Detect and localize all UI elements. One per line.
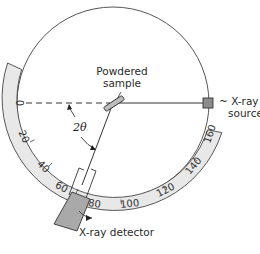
arrowhead-icon xyxy=(67,104,72,110)
scale-label-100: 100 xyxy=(120,197,140,210)
diffractometer-diagram: 0 20 40 60 80 100 120 140 160 2θ Powdere… xyxy=(0,0,260,254)
arrowhead-icon xyxy=(90,145,96,150)
scale-label-0: 0 xyxy=(14,100,25,106)
arrowhead-icon xyxy=(86,215,92,221)
x-ray-source-label-line1: ~ X-ray xyxy=(219,95,259,107)
x-ray-source-box xyxy=(203,98,213,108)
sample-label: sample xyxy=(103,77,141,89)
x-ray-source-label-line2: source xyxy=(228,107,260,119)
powdered-label: Powdered xyxy=(96,65,147,77)
diffracted-beam-line xyxy=(82,103,113,185)
two-theta-label: 2θ xyxy=(72,121,87,134)
x-ray-detector-label: X-ray detector xyxy=(79,226,155,238)
